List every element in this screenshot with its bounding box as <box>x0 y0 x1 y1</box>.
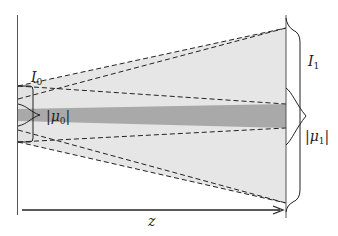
i1-brace <box>286 18 300 212</box>
label-mu0: |μ0| <box>46 108 70 126</box>
label-z: z <box>147 213 156 229</box>
label-I0: I0 <box>30 69 43 87</box>
beam-diagram: I0 |μ0| I1 |μ1| z <box>0 0 338 236</box>
label-I1: I1 <box>307 53 319 71</box>
label-mu1: |μ1| <box>305 128 329 146</box>
observation-gaussian-curve <box>286 88 306 145</box>
